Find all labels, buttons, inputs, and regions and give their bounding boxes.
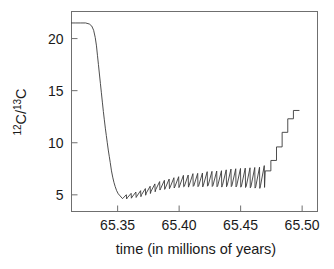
x-axis-title: time (in millions of years) bbox=[116, 241, 276, 257]
chart-figure: 5101520 65.3565.4065.4565.50 12C/13C tim… bbox=[0, 0, 334, 269]
y-tick-label-10: 10 bbox=[48, 135, 64, 151]
y-tick-label-5: 5 bbox=[56, 187, 64, 203]
x-tick-label-65.40: 65.40 bbox=[162, 217, 197, 233]
x-tick-label-65.50: 65.50 bbox=[285, 217, 320, 233]
plot-frame bbox=[72, 12, 318, 212]
carbon-isotope-line-chart: 5101520 65.3565.4065.4565.50 12C/13C tim… bbox=[0, 0, 334, 269]
x-axis-title-text: time (in millions of years) bbox=[116, 241, 276, 257]
x-axis-ticks bbox=[118, 206, 303, 212]
x-axis-tick-labels: 65.3565.4065.4565.50 bbox=[100, 217, 320, 233]
y-axis-title-base-c-slash: C/ bbox=[13, 109, 29, 124]
x-tick-label-65.35: 65.35 bbox=[100, 217, 135, 233]
y-axis-title-sup-12: 12 bbox=[12, 124, 23, 136]
y-axis-tick-labels: 5101520 bbox=[48, 31, 64, 203]
y-axis-ticks bbox=[72, 39, 78, 195]
data-series-layer bbox=[72, 23, 300, 199]
y-tick-label-15: 15 bbox=[48, 83, 64, 99]
y-axis-title-sup-13: 13 bbox=[12, 98, 23, 110]
y-tick-label-20: 20 bbox=[48, 31, 64, 47]
y-axis-title-base-c: C bbox=[13, 88, 29, 98]
x-tick-label-65.45: 65.45 bbox=[223, 217, 258, 233]
y-axis-title: 12C/13C bbox=[12, 88, 29, 135]
series-line-12c13c bbox=[72, 23, 300, 199]
svg-text:12C/13C: 12C/13C bbox=[12, 88, 29, 135]
